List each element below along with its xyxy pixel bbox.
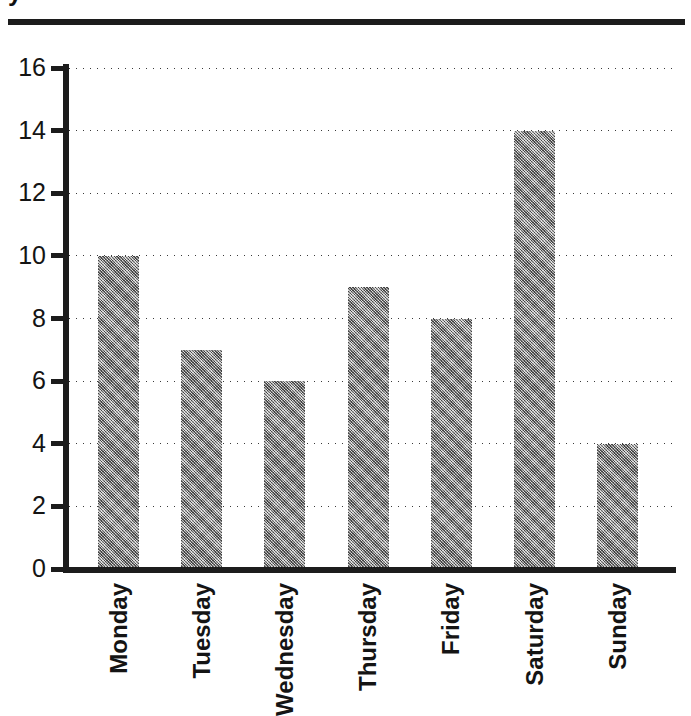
x-tick-label-text: Monday [107,583,131,674]
x-tick-label: Wednesday [264,583,305,703]
x-tick-label: Sunday [597,583,638,703]
x-axis-line [63,567,676,573]
y-tick-label: 4 [32,431,46,456]
bar [597,444,638,569]
bar [264,381,305,569]
gridline [69,255,672,256]
y-tick-label: 10 [18,243,46,268]
x-tick-label: Friday [431,583,472,703]
bar [98,256,139,569]
bar [348,287,389,569]
bar [514,131,555,569]
bar [431,319,472,570]
y-tick-label: 0 [32,556,46,581]
y-tick-label: 8 [32,306,46,331]
y-tick-label: 14 [18,118,46,143]
y-tick-label: 16 [18,55,46,80]
x-tick-label-text: Saturday [523,583,547,686]
x-tick-label-text: Sunday [606,583,630,670]
x-tick-label-text: Friday [439,583,463,655]
y-tick-label: 2 [32,493,46,518]
x-tick-label-text: Tuesday [190,583,214,679]
x-tick-label: Thursday [348,583,389,703]
y-axis-line [63,64,69,573]
x-tick-label-text: Thursday [356,583,380,691]
x-tick-label: Saturday [514,583,555,703]
bar [181,350,222,569]
x-tick-label-text: Wednesday [273,583,297,716]
gridline [69,193,672,194]
gridline [69,130,672,131]
x-tick-label: Tuesday [181,583,222,703]
y-tick-label: 12 [18,180,46,205]
x-tick-label: Monday [98,583,139,703]
gridline [69,68,672,69]
y-tick-label: 6 [32,368,46,393]
